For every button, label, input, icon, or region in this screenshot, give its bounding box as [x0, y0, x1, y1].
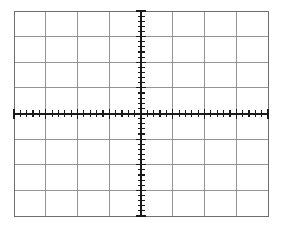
graticule-container: [0, 0, 282, 228]
graticule-svg: [0, 0, 282, 228]
oscilloscope-screen: [0, 0, 282, 228]
y-axis-tick-marks: [136, 11, 146, 216]
